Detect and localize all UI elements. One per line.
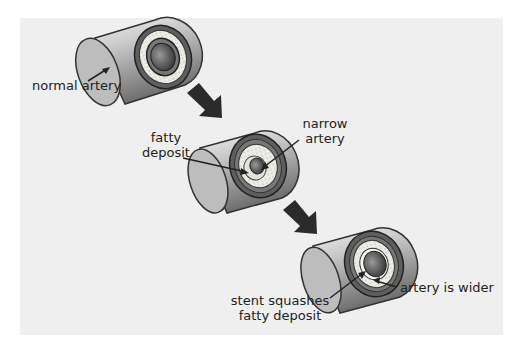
label-stent-line1: stent squashes bbox=[222, 293, 338, 308]
label-stent-line2: fatty deposit bbox=[222, 308, 338, 323]
label-fatty-deposit: fatty deposit bbox=[136, 130, 196, 160]
label-fatty-line1: fatty bbox=[136, 130, 196, 145]
label-stent: stent squashes fatty deposit bbox=[222, 293, 338, 323]
label-narrow-line1: narrow bbox=[297, 116, 353, 131]
label-fatty-line2: deposit bbox=[136, 145, 196, 160]
down-arrow-2-icon bbox=[283, 200, 317, 234]
label-narrow-line2: artery bbox=[297, 131, 353, 146]
label-artery-wider: artery is wider bbox=[400, 280, 494, 295]
label-narrow-artery: narrow artery bbox=[297, 116, 353, 146]
narrowed-artery-tube bbox=[181, 127, 299, 218]
normal-artery-tube bbox=[67, 17, 202, 111]
down-arrow-1-icon bbox=[187, 83, 222, 118]
label-normal-artery: normal artery bbox=[32, 78, 121, 93]
